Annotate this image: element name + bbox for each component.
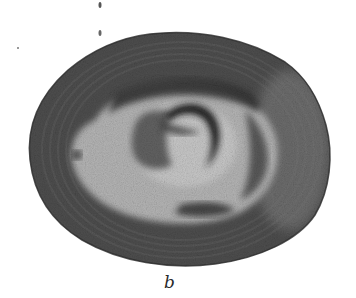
cross-section-image	[0, 0, 356, 298]
panel-label: b	[164, 274, 175, 291]
micrograph-figure	[0, 0, 356, 298]
speck-mark	[99, 2, 102, 8]
